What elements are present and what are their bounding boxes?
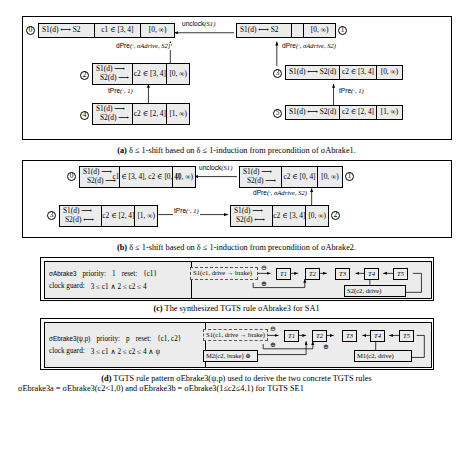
panel-a-edge-dpre-right: dPre(·, σAdrive, S2): [281, 43, 337, 50]
panel-d-train-1-label: T1: [288, 333, 295, 340]
panel-c-clockguard-label: clock guard:: [49, 282, 85, 290]
panel-b-node-0-index: 0: [67, 172, 76, 181]
panel-a-node-1-interval: [0, ∞): [304, 24, 335, 37]
panel-b-node-1: S1(d) ⟶ S2(d) ⟶ c2 ∈ [0, 4] [0, ∞): [239, 166, 343, 188]
panel-c-rule-header: σAbrake3 priority: 1 reset: {c1} clock g…: [45, 262, 192, 298]
panel-c-ominus-glyph: ⊖: [261, 264, 267, 272]
panel-c-train-1-label: T1: [280, 271, 287, 278]
panel-b-edge-unclock-args: (S1): [221, 164, 232, 171]
panel-a-node-4-graph: S1(d) ⟶ S2(d) ⟶: [93, 104, 133, 124]
panel-a-caption-text: δ ≤ 1-shift based on δ ≤ 1-induction fro…: [129, 146, 356, 155]
panel-d-oplus-glyph: ⊕: [270, 341, 276, 349]
panel-b-node-1-clock: c2 ∈ [0, 4]: [282, 167, 318, 187]
panel-d-train-5-label: T5: [403, 333, 410, 340]
panel-b-node-2-graph: S1(d) ⟶ S2(d) ⟷: [231, 206, 273, 226]
panel-a-node-0-interval: [0, ∞): [141, 24, 174, 37]
panel-d-rule-name: σEbrake3(ψ,p): [49, 335, 90, 342]
panel-b-node-3: S1(d) ⟶ S2(d) ⟷ c2 ∈ [2, 4] [1, ∞): [59, 205, 158, 227]
panel-a-edge-unclock-args: (S1): [204, 20, 215, 27]
panel-d-lhs-node-2: M2(c2, brake) ⊕: [203, 350, 258, 362]
panel-a-node-3: S1(d) ⟷ S2(d) c2 ∈ [3, 4] [0, ∞): [285, 65, 403, 80]
panel-b-edge-dpre: dPre(·, σAdrive, S2): [252, 190, 308, 197]
panel-c-reset-value: {c1}: [143, 270, 157, 278]
panel-d-priority-value: p: [126, 335, 130, 343]
panel-b-caption-prefix: (b): [117, 243, 127, 252]
panel-b-node-2-clock: c2 ∈ [3, 4]: [273, 206, 306, 226]
panel-a-caption: (a) δ ≤ 1-shift based on δ ≤ 1-induction…: [0, 146, 473, 156]
panel-b-edge-dpre-args: (·, σAdrive, S2): [267, 189, 307, 196]
panel-b-node-0-interval: [0, ∞): [173, 167, 195, 187]
panel-d-clockguard-label: clock guard:: [49, 347, 85, 355]
panel-b-node-0-clock: c1 ∈ [3, 4], c2 ∈ [0, 4]: [120, 167, 173, 187]
panel-a-node-1: S1(d) ⟷ S2 [0, ∞): [236, 23, 336, 38]
panel-c-rule: σAbrake3 priority: 1 reset: {c1} clock g…: [44, 261, 432, 299]
panel-a-node-0-graph: S1(d) ⟷ S2: [39, 24, 95, 37]
panel-c-priority-value: 1: [112, 270, 116, 278]
panel-a-node-1-graph: S1(d) ⟷ S2: [237, 24, 292, 37]
panel-d-train-2-label: T2: [316, 333, 323, 340]
panel-c-train-5-label: T5: [397, 271, 404, 278]
panel-d-caption-line2: σEbrake3a = σEbrake3(c2<1,0) and σEbrake…: [0, 384, 473, 394]
panel-c-caption: (c) The synthesized TGTS rule σAbrake3 f…: [0, 304, 473, 314]
panel-b-node-0-line2: S2(d) ⟶: [87, 177, 116, 185]
panel-c-priority-label: priority:: [82, 270, 106, 278]
panel-a-edge-dpre-left-args: (·, σAdrive, S2): [130, 42, 170, 49]
panel-d-rule-header: σEbrake3(ψ,p) priority: p reset: {c1, c2…: [45, 323, 206, 367]
panel-a-node-2-index: 2: [80, 71, 89, 80]
panel-c-train-3-label: T3: [339, 271, 346, 278]
panel-b-node-2-index: 2: [331, 211, 340, 220]
panel-a-node-4: S1(d) ⟶ S2(d) ⟶ c2 ∈ [2, 4] [1, ∞): [92, 103, 190, 125]
panel-c: σAbrake3 priority: 1 reset: {c1} clock g…: [40, 257, 434, 301]
panel-d: σEbrake3(ψ,p) priority: p reset: {c1, c2…: [40, 318, 434, 370]
panel-a-node-4-index: 4: [80, 111, 89, 120]
figure-root: 0 S1(d) ⟷ S2 c1 ∈ [3, 4] [0, ∞) S1(d) ⟷ …: [0, 0, 473, 474]
panel-c-train-3: T3: [335, 268, 350, 280]
panel-a-edge-unclock: unclock(S1): [181, 21, 216, 28]
panel-c-train-4-label: T4: [368, 271, 375, 278]
panel-c-train-1: T1: [276, 268, 291, 280]
panel-a-node-5-graph: S1(d) ⟷ S2(d): [286, 106, 340, 119]
panel-d-bottom-node: M1(c2, drive): [354, 350, 412, 362]
panel-d-train-3: T3: [342, 330, 357, 342]
panel-c-train-4: T4: [364, 268, 379, 280]
panel-b-node-1-line1: S1(d) ⟶: [243, 168, 272, 176]
panel-a-node-2-graph: S1(d) ⟶ S2(d) ⟶: [93, 64, 133, 84]
panel-b-edge-unclock: unclock(S1): [198, 165, 233, 172]
panel-a-edge-tpre-right: tPre(·, 1): [338, 88, 365, 95]
panel-b-node-1-graph: S1(d) ⟶ S2(d) ⟶: [240, 167, 282, 187]
panel-a-node-1-index: 1: [338, 26, 347, 35]
panel-a-node-1-line1: S1(d) ⟷ S2: [240, 26, 279, 34]
panel-d-caption-line1: (d) TGTS rule pattern σEbrake3(ψ,p) used…: [0, 374, 473, 384]
panel-b-node-2-line2: S2(d) ⟷: [236, 216, 265, 224]
panel-b-caption: (b) δ ≤ 1-shift based on δ ≤ 1-induction…: [0, 243, 473, 253]
panel-d-train-1: T1: [284, 330, 299, 342]
panel-a-edge-dpre-left: dPre(·, σAdrive, S2): [115, 43, 171, 50]
panel-d-ominus-glyph: ⊖: [270, 325, 276, 333]
panel-a-node-3-clock: c2 ∈ [3, 4]: [340, 66, 377, 79]
panel-b-node-3-interval: [1, ∞): [135, 206, 157, 226]
panel-a-node-0: S1(d) ⟷ S2 c1 ∈ [3, 4] [0, ∞): [38, 23, 175, 38]
panel-c-caption-prefix: (c): [153, 304, 162, 313]
panel-a-edge-tpre-left: tPre(·, 1): [107, 88, 134, 95]
panel-a-node-3-graph: S1(d) ⟷ S2(d): [286, 66, 340, 79]
panel-d-train-4-label: T4: [374, 333, 381, 340]
panel-a-node-1-clock: [292, 24, 304, 37]
panel-c-lhs-node-label: S1(c1, drive → brake): [193, 270, 252, 277]
panel-b-edge-tpre: tPre(·, 1): [173, 208, 200, 215]
panel-c-oplus-glyph: ⊕: [261, 280, 267, 288]
panel-d-lhs-node-2-label: M2(c2, brake) ⊕: [206, 353, 251, 360]
panel-a-node-5-clock: c2 ∈ [2, 4]: [340, 106, 377, 119]
panel-d-rule: σEbrake3(ψ,p) priority: p reset: {c1, c2…: [44, 322, 432, 368]
panel-a-node-0-clock: c1 ∈ [3, 4]: [95, 24, 142, 37]
panel-c-bottom-node: S2(c2, drive): [344, 285, 406, 297]
panel-a-edge-tpre-right-name: tPre: [339, 87, 351, 94]
panel-c-ominus-icon: ⊖: [261, 265, 267, 272]
panel-a-node-3-index: 3: [273, 69, 282, 78]
panel-b-edge-tpre-args: (·, 1): [186, 207, 199, 214]
panel-d-oplus-icon: ⊕: [270, 342, 276, 349]
panel-b-node-3-graph: S1(d) ⟶ S2(d) ⟷: [60, 206, 102, 226]
panel-a-node-4-line2: S2(d) ⟶: [100, 114, 129, 122]
panel-b-edge-unclock-name: unclock: [199, 164, 221, 171]
panel-a-node-2-clock: c2 ∈ [3, 4]: [133, 64, 167, 84]
panel-a-node-0-index: 0: [26, 26, 35, 35]
